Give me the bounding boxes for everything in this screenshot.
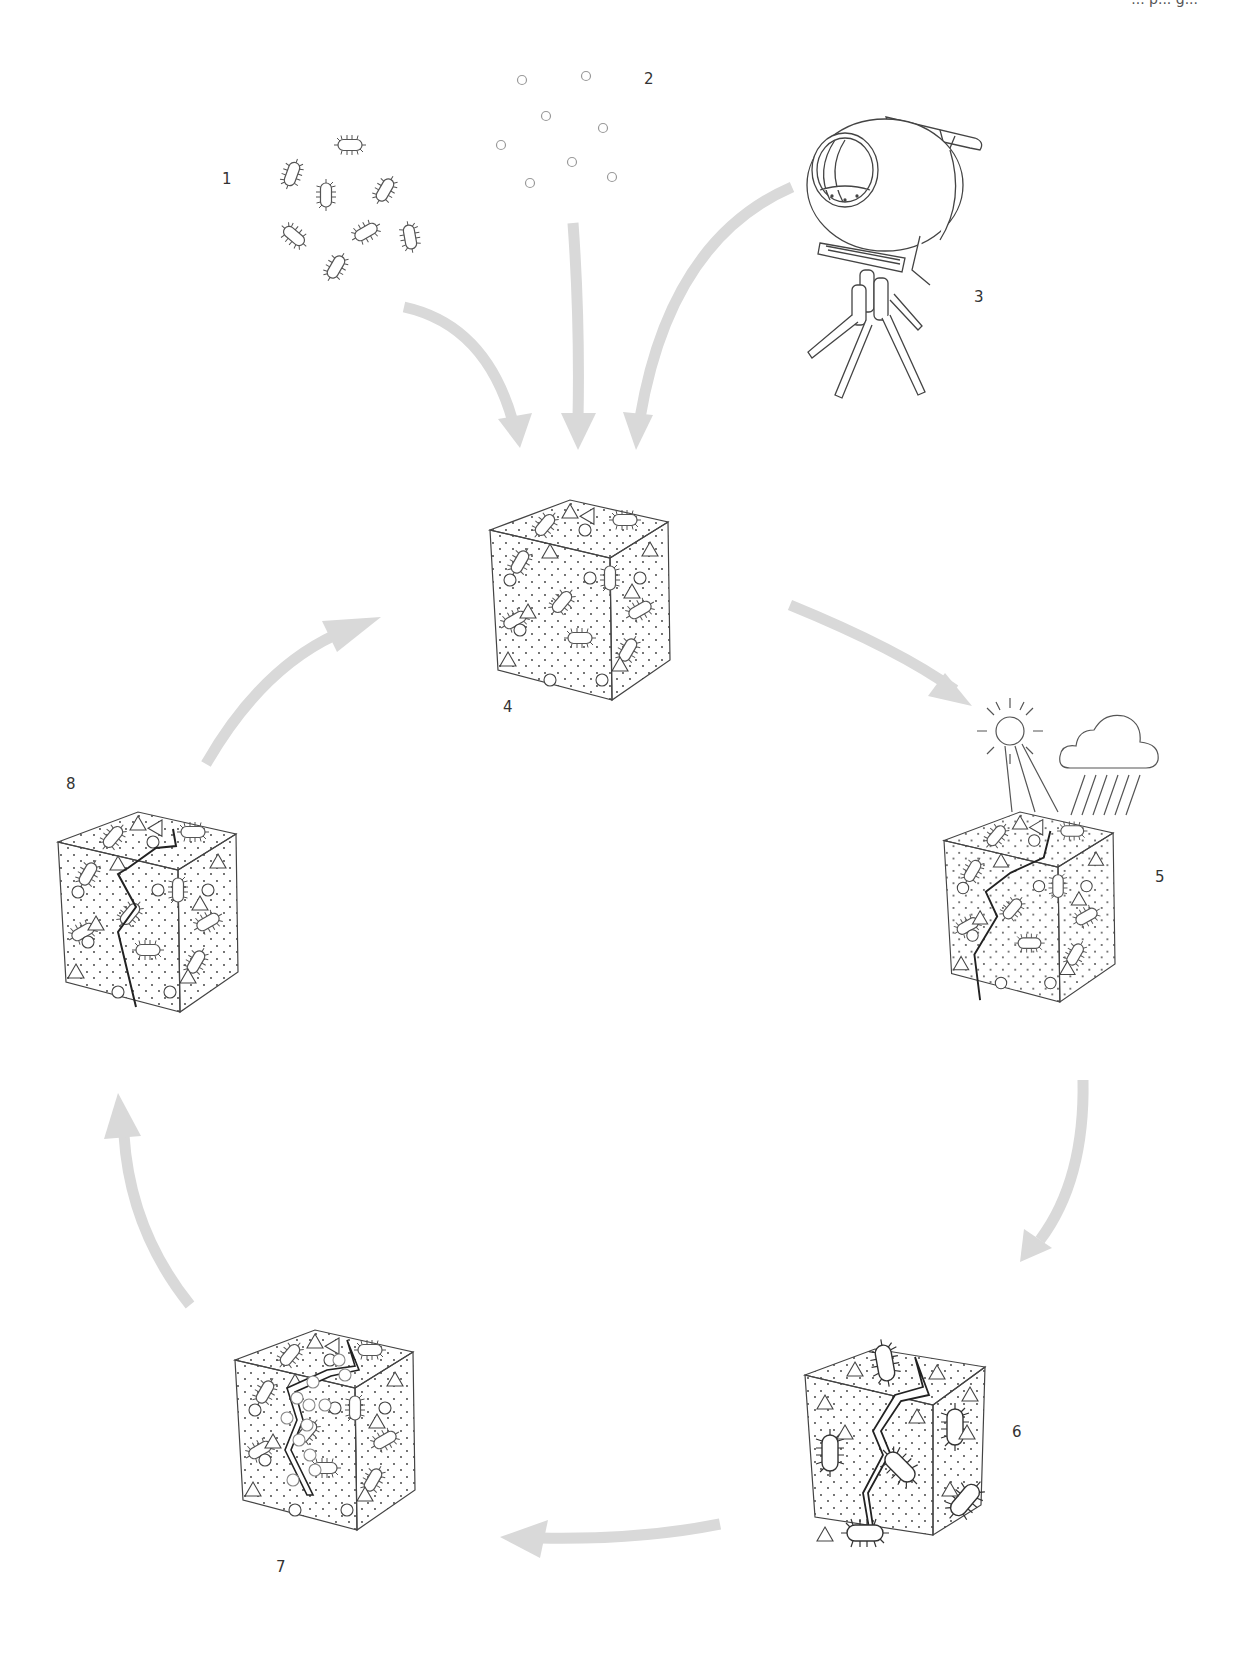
sun-icon bbox=[977, 698, 1058, 812]
step-label-3: 3 bbox=[974, 290, 984, 305]
arrow-8-to-4 bbox=[206, 617, 381, 764]
step-label-6: 6 bbox=[1012, 1425, 1022, 1440]
step-label-2: 2 bbox=[644, 72, 654, 87]
cracked-cube-icon bbox=[805, 1337, 991, 1547]
arrows bbox=[104, 187, 1083, 1558]
step-label-4: 4 bbox=[503, 700, 513, 715]
arrow-2-to-4 bbox=[561, 223, 596, 450]
step-label-1: 1 bbox=[222, 172, 232, 187]
bacteria-icon bbox=[275, 135, 422, 286]
particles-icon bbox=[497, 72, 617, 188]
diagram-canvas bbox=[0, 0, 1238, 1658]
bio-concrete-cycle-diagram: ... p... g... bbox=[0, 0, 1238, 1658]
arrow-1-to-4 bbox=[404, 307, 532, 448]
arrow-6-to-7 bbox=[500, 1520, 720, 1558]
header-cut-text: ... p... g... bbox=[1131, 0, 1198, 7]
cracked-cube-weather-icon bbox=[944, 698, 1158, 1002]
arrow-4-to-5 bbox=[790, 605, 972, 706]
concrete-cube-icon bbox=[490, 500, 670, 700]
step-label-5: 5 bbox=[1155, 870, 1165, 885]
rain-cloud-icon bbox=[1060, 715, 1158, 815]
concrete-mixer-icon bbox=[807, 117, 982, 398]
healing-cube-icon bbox=[235, 1330, 415, 1530]
arrow-3-to-4 bbox=[623, 187, 792, 450]
step-label-7: 7 bbox=[276, 1560, 286, 1575]
healed-cube-icon bbox=[58, 812, 238, 1012]
arrow-7-to-8 bbox=[104, 1093, 190, 1305]
arrow-5-to-6 bbox=[1020, 1080, 1083, 1262]
step-label-8: 8 bbox=[66, 777, 76, 792]
